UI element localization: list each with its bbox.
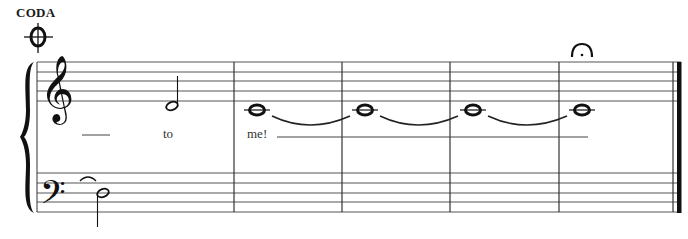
brace-icon <box>20 62 34 213</box>
treble-staff <box>37 62 681 101</box>
bass-clef-icon: 𝄢 <box>40 173 66 219</box>
coda-icon <box>24 23 53 53</box>
lyric-to: to <box>163 126 173 142</box>
lyric-me: me! <box>247 126 267 142</box>
whole-notes <box>244 105 595 115</box>
ties <box>272 116 567 125</box>
bass-staff <box>37 173 681 212</box>
fermata-icon <box>572 44 592 57</box>
tie-in <box>80 177 96 181</box>
notation-canvas: 𝄞 𝄢 <box>0 0 688 239</box>
music-score: CODA 𝄞 𝄢 <box>0 0 688 239</box>
final-barline <box>677 62 682 213</box>
treble-clef-icon: 𝄞 <box>40 54 74 125</box>
